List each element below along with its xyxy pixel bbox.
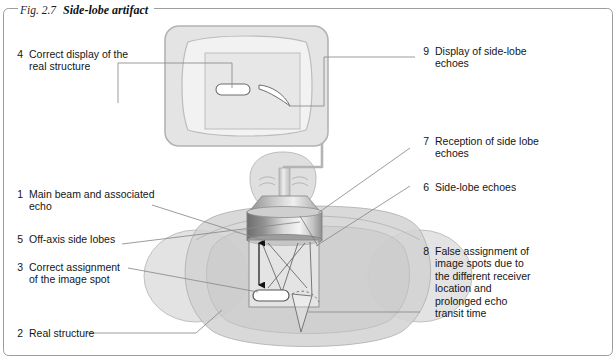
legend-number-3: 3 — [14, 261, 23, 273]
legend-text-6: Side-lobe echoes — [435, 181, 585, 193]
legend-item-2: 2 Real structure — [14, 327, 174, 339]
legend-item-6: 6 Side-lobe echoes — [420, 181, 585, 193]
legend-number-2: 2 — [14, 327, 23, 339]
capsule-shape — [216, 84, 250, 95]
legend-text-8: False assignment of image spots due to t… — [435, 245, 580, 319]
real-structure-target — [253, 290, 289, 301]
legend-text-1: Main beam and associated echo — [29, 188, 184, 213]
leader-line-7 — [318, 148, 410, 213]
legend-text-7: Reception of side lobe echoes — [435, 135, 585, 160]
legend-text-9: Display of side-lobe echoes — [435, 45, 580, 70]
figure-container: Fig. 2.7 Side-lobe artifact — [0, 0, 616, 359]
legend-number-1: 1 — [14, 188, 23, 200]
legend-item-3: 3 Correct assignment of the image spot — [14, 261, 174, 286]
legend-number-5: 5 — [14, 233, 23, 245]
legend-item-7: 7 Reception of side lobe echoes — [420, 135, 585, 160]
legend-number-8: 8 — [420, 245, 429, 257]
legend-text-5: Off-axis side lobes — [29, 233, 184, 245]
legend-text-2: Real structure — [29, 327, 174, 339]
legend-item-1: 1 Main beam and associated echo — [14, 188, 184, 213]
legend-number-9: 9 — [420, 45, 429, 57]
legend-item-8: 8 False assignment of image spots due to… — [420, 245, 580, 319]
legend-text-3: Correct assignment of the image spot — [29, 261, 174, 286]
legend-item-5: 5 Off-axis side lobes — [14, 233, 184, 245]
legend-number-6: 6 — [420, 181, 429, 193]
legend-number-4: 4 — [14, 48, 23, 60]
legend-item-4: 4 Correct display of the real structure — [14, 48, 164, 73]
legend-text-4: Correct display of the real structure — [29, 48, 164, 73]
legend-number-7: 7 — [420, 135, 429, 147]
legend-item-9: 9 Display of side-lobe echoes — [420, 45, 580, 70]
